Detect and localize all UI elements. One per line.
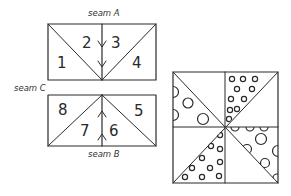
polka-dot-triangle-bottom-right — [231, 123, 284, 182]
piece-3: 3 — [111, 34, 121, 52]
seam-c-label: seam C — [14, 83, 46, 93]
bottom-unit: 8 7 6 5 — [48, 95, 156, 146]
quilt-diagram: seam A seam C seam B 1 2 3 4 8 7 6 5 — [0, 0, 291, 196]
seam-b-label: seam B — [88, 149, 120, 159]
polka-dot-triangle-top-left — [168, 87, 209, 125]
top-unit: 1 2 3 4 — [48, 24, 156, 80]
piece-2: 2 — [82, 34, 92, 52]
piece-8: 8 — [58, 101, 68, 119]
pinwheel-block — [168, 72, 284, 183]
piece-1: 1 — [57, 54, 67, 72]
polka-dot-triangle-bottom-left — [182, 132, 222, 179]
piece-5: 5 — [134, 102, 144, 120]
seam-a-label: seam A — [88, 8, 120, 18]
piece-4: 4 — [132, 54, 142, 72]
piece-6: 6 — [109, 122, 119, 140]
piece-7: 7 — [80, 122, 90, 140]
